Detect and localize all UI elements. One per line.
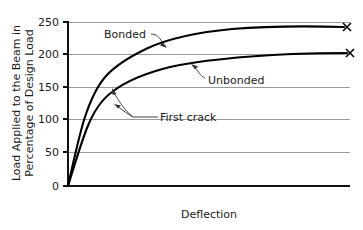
x-axis-title: Deflection: [181, 208, 237, 221]
y-tick-label-0: 0: [52, 180, 59, 193]
y-axis-title-line2: Percentage of Design Load: [23, 29, 36, 176]
y-tick-label-150: 150: [38, 81, 59, 94]
bonded-label: Bonded: [104, 28, 146, 41]
first-crack-label: First crack: [160, 111, 217, 124]
y-tick-label-100: 100: [38, 113, 59, 126]
load-deflection-chart: 250 200 150 100 50 0 Load Applied to the…: [0, 0, 363, 230]
y-axis-title: Load Applied to the Beam in Percentage o…: [10, 25, 36, 181]
y-axis-title-line1: Load Applied to the Beam in: [10, 25, 23, 181]
chart-container: 250 200 150 100 50 0 Load Applied to the…: [0, 0, 363, 230]
y-tick-label-50: 50: [45, 146, 59, 159]
y-tick-label-250: 250: [38, 16, 59, 29]
unbonded-label: Unbonded: [208, 74, 264, 87]
y-tick-label-200: 200: [38, 48, 59, 61]
